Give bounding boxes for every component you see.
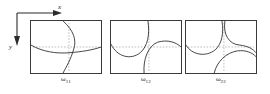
nodal-arc-upper-right <box>225 21 256 53</box>
panel-3-caption: ω22 <box>185 76 257 84</box>
figure-container: x y <box>0 0 270 94</box>
panel-2-caption: ω12 <box>110 76 182 84</box>
panel-1-caption: ω11 <box>30 76 102 84</box>
panel-3-plot <box>186 21 256 73</box>
panel-omega-22 <box>185 20 257 74</box>
panel-2-plot <box>111 21 181 73</box>
nodal-curve-lower-right <box>144 41 181 73</box>
panel-1-caption-subscript: 11 <box>66 79 71 84</box>
panel-omega-12 <box>110 20 182 74</box>
nodal-curve-horizontal <box>31 45 101 53</box>
panel-omega-11 <box>30 20 102 74</box>
panel-2-caption-subscript: 12 <box>146 79 151 84</box>
nodal-arc-lower <box>214 51 256 73</box>
nodal-curve-upper-left <box>111 21 149 57</box>
panel-3-caption-subscript: 22 <box>221 79 226 84</box>
panel-1-plot <box>31 21 101 73</box>
nodal-arc-upper-left <box>186 21 223 54</box>
